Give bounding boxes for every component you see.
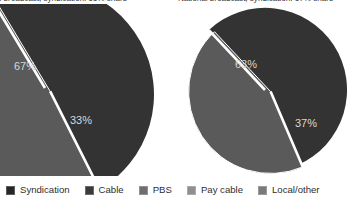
legend: Syndication Cable PBS Pay cable Local/ot…: [0, 180, 355, 200]
legend-swatch-cable: [85, 186, 94, 195]
pie-right-svg: 63% 37%: [178, 4, 355, 176]
pie-chart-local-broadcast: 67% 33%: [0, 4, 172, 176]
pie-chart-national-broadcast: 63% 37%: [178, 4, 355, 176]
pie-left-svg: 67% 33%: [0, 4, 172, 176]
legend-label-syndication: Syndication: [20, 185, 70, 195]
pie-right-label-major: 63%: [235, 58, 257, 70]
legend-swatch-syndication: [6, 186, 15, 195]
legend-label-pbs: PBS: [153, 185, 172, 195]
chart-title-national-broadcast: National broadcast, syndication: 37% sha…: [178, 0, 333, 3]
legend-swatch-pay-cable: [187, 186, 196, 195]
legend-label-pay-cable: Pay cable: [201, 185, 243, 195]
pie-left-label-major: 67%: [14, 60, 36, 72]
pie-left-label-exploded: 33%: [70, 114, 92, 126]
legend-item-cable[interactable]: Cable: [85, 185, 124, 195]
legend-swatch-pbs: [139, 186, 148, 195]
pie-right-label-exploded: 37%: [295, 117, 317, 129]
legend-label-local-other: Local/other: [272, 185, 319, 195]
legend-item-pay-cable[interactable]: Pay cable: [187, 185, 243, 195]
legend-item-syndication[interactable]: Syndication: [6, 185, 70, 195]
legend-item-local-other[interactable]: Local/other: [258, 185, 319, 195]
legend-label-cable: Cable: [99, 185, 124, 195]
chart-title-local-broadcast: Local broadcast, syndication: 33% share: [0, 0, 127, 3]
legend-swatch-local-other: [258, 186, 267, 195]
legend-item-pbs[interactable]: PBS: [139, 185, 172, 195]
chart-canvas: Local broadcast, syndication: 33% share …: [0, 0, 355, 200]
